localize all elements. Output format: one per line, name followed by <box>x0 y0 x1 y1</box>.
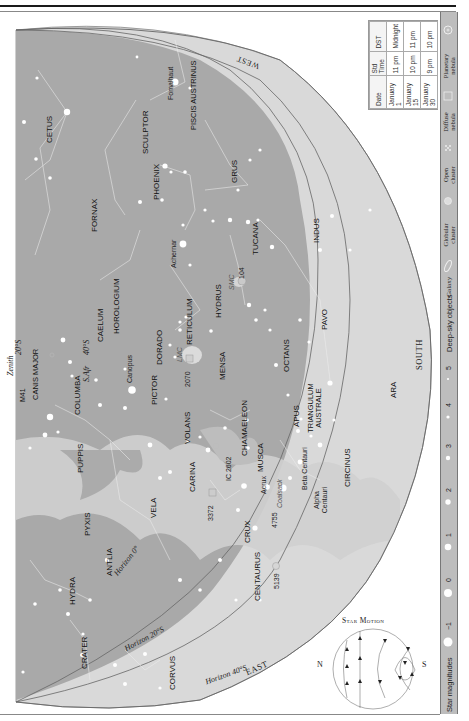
constellation-label: VELA <box>149 498 158 518</box>
star-label: Achernar <box>170 240 177 268</box>
deep-sky-label: Coalsack <box>276 479 283 508</box>
deep-sky-label: 4755 <box>271 512 278 528</box>
constellation-label: ARA <box>389 382 398 398</box>
magnitudes-legend-title: Star magnitudes <box>445 657 454 712</box>
star-label: Canopus <box>126 355 133 383</box>
star-label: Fomalhaut <box>167 67 174 100</box>
table-row: January 1 11 pm Midnight <box>387 22 404 109</box>
table-row: January 15 10 pm 11 pm <box>404 22 421 109</box>
star-label: Alpha Centauri <box>313 485 329 515</box>
constellation-label: PUPPIS <box>76 444 85 473</box>
constellation-label: HYDRA <box>68 577 77 605</box>
planetary-nebula-icon <box>442 24 454 36</box>
star-motion-diagram <box>333 629 415 709</box>
constellation-label: COLUMBA <box>73 375 82 415</box>
legend-diffuse-nebula-label: Diffuse nebula <box>443 110 456 134</box>
deep-sky-label: 3372 <box>207 505 214 521</box>
constellation-label: RETICULUM <box>185 298 194 345</box>
deep-sky-label: SMC <box>228 274 235 290</box>
constellation-label: CAELUM <box>96 309 105 342</box>
constellation-label: APUS <box>292 405 301 427</box>
constellation-label: FORNAX <box>90 199 99 232</box>
constellation-label: CHAMAELEON <box>240 400 249 456</box>
magnitude-label: 2 <box>445 488 452 492</box>
diffuse-nebula-icon <box>442 90 454 102</box>
constellation-label: INDUS <box>312 218 321 243</box>
constellation-label: CRUX <box>243 520 252 543</box>
constellation-label: GRUS <box>230 160 239 183</box>
legend-galaxy-label: Galaxy <box>445 277 453 297</box>
constellation-label: HOROLOGIUM <box>112 278 121 334</box>
magnitude-label: −1 <box>445 622 452 630</box>
header-date: Date <box>370 76 387 109</box>
constellation-label: CANIS MAJOR <box>32 349 40 400</box>
constellation-label: CIRCINUS <box>343 448 352 487</box>
time-table: Date Std Time DST January 1 11 pm Midnig… <box>368 20 438 110</box>
star-motion-south: S <box>422 660 426 669</box>
star-motion-north: N <box>317 660 323 669</box>
legend-open-cluster-label: Open cluster <box>443 164 456 186</box>
constellation-label: PHOENIX <box>152 164 161 200</box>
constellation-label: CRATER <box>80 637 89 669</box>
globular-cluster-icon <box>443 196 453 206</box>
header-dst: DST <box>370 22 387 52</box>
deep-sky-label: 2070 <box>184 371 191 387</box>
constellation-label: PAVO <box>320 309 329 330</box>
constellation-label: MENSA <box>218 352 227 380</box>
zenith-label: Zenith <box>6 356 15 376</box>
deep-sky-legend-title: Deep-sky objects <box>445 294 454 352</box>
constellation-label: PYXIS <box>83 512 92 536</box>
constellation-label: PICTOR <box>150 375 159 405</box>
deep-sky-label: 104 <box>238 267 245 279</box>
table-row: January 30 9 pm 10 pm <box>421 22 438 109</box>
magnitude-label: 3 <box>445 444 452 448</box>
deep-sky-label: M41 <box>19 388 26 402</box>
deep-sky-label: LMC <box>176 347 183 362</box>
direction-south: SOUTH <box>414 339 424 370</box>
constellation-label: TUCANA <box>251 222 260 255</box>
zenith-secondary-label: S.Afr <box>82 366 91 382</box>
zenith-latitude: 20°S <box>14 340 23 355</box>
star-motion-title: Star Motion <box>342 616 384 625</box>
legend-planetary-nebula-label: Planetary nebula <box>443 52 456 80</box>
magnitude-label: 0 <box>445 578 452 582</box>
legend-globular-label: Globular cluster <box>443 222 456 248</box>
star-label: Acrux <box>260 476 267 494</box>
constellation-label: MUSCA <box>256 443 265 472</box>
open-cluster-icon <box>443 143 453 153</box>
magnitude-label: 4 <box>445 403 452 407</box>
constellation-label: PISCIS AUSTRINUS <box>190 60 198 130</box>
constellation-label: CARINA <box>188 462 197 492</box>
constellation-label: HYDRUS <box>214 284 223 318</box>
magnitude-minus1-icon <box>444 638 453 647</box>
header-std-time: Std Time <box>370 51 387 76</box>
deep-sky-label: IC 2602 <box>225 456 232 481</box>
constellation-label: CENTAURUS <box>253 552 262 601</box>
zenith-secondary-latitude: 40°S <box>82 340 91 355</box>
constellation-label: CETUS <box>45 116 54 143</box>
time-table-grid: Date Std Time DST January 1 11 pm Midnig… <box>369 21 438 109</box>
constellation-label: SCULPTOR <box>141 111 150 154</box>
constellation-label: TRIANGULUM AUSTRALE <box>307 380 323 436</box>
constellation-label: CORVUS <box>168 656 177 690</box>
constellation-label: DORADO <box>155 330 164 365</box>
magnitude-label: 5 <box>445 366 452 370</box>
galaxy-icon <box>442 258 454 274</box>
constellation-label: OCTANS <box>282 339 291 372</box>
star-label: Beta Centauri <box>301 447 308 490</box>
magnitude-label: 1 <box>445 533 452 537</box>
deep-sky-label: 5139 <box>273 573 280 589</box>
constellation-label: VOLANS <box>183 412 192 444</box>
